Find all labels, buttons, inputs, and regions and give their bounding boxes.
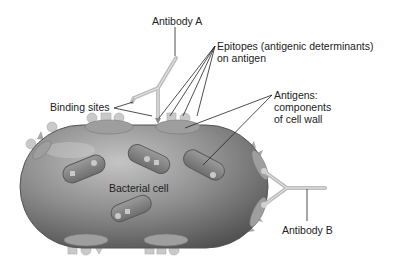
label-epitopes-line2: on antigen [217,52,266,64]
label-antigens-line1: Antigens: [274,89,318,101]
label-binding-sites: Binding sites [50,101,110,113]
label-antibody-a: Antibody A [152,15,202,27]
label-epitopes-line1: Epitopes (antigenic determinants) [217,40,373,52]
label-antibody-b: Antibody B [282,224,333,236]
label-antigens-line3: of cell wall [274,113,322,125]
antibody-a [132,58,176,118]
label-bacterial-cell: Bacterial cell [109,182,169,194]
label-antigens-line2: components [274,101,331,113]
